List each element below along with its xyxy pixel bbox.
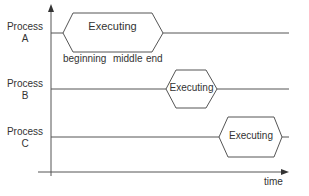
phase-middle: middle — [113, 53, 142, 64]
process-a-state: Executing — [73, 20, 152, 32]
phase-end: end — [146, 53, 163, 64]
process-b-label: Process B — [2, 78, 48, 102]
process-b-label-line1: Process — [2, 78, 48, 90]
process-a-executing-hexagon — [63, 13, 163, 52]
process-c-label-line1: Process — [2, 126, 48, 138]
process-b-label-line2: B — [2, 90, 48, 102]
phase-beginning: beginning — [63, 53, 106, 64]
process-c-label: Process C — [2, 126, 48, 150]
time-axis-label: time — [264, 176, 283, 187]
vertical-axis-arrow-icon — [48, 4, 54, 12]
process-a-label-line2: A — [2, 33, 48, 45]
time-axis-arrow-icon — [281, 169, 289, 175]
process-c-label-line2: C — [2, 138, 48, 150]
process-a-label-line1: Process — [2, 21, 48, 33]
process-c-state: Executing — [222, 130, 280, 141]
process-a-label: Process A — [2, 21, 48, 45]
process-b-state: Executing — [168, 82, 215, 93]
